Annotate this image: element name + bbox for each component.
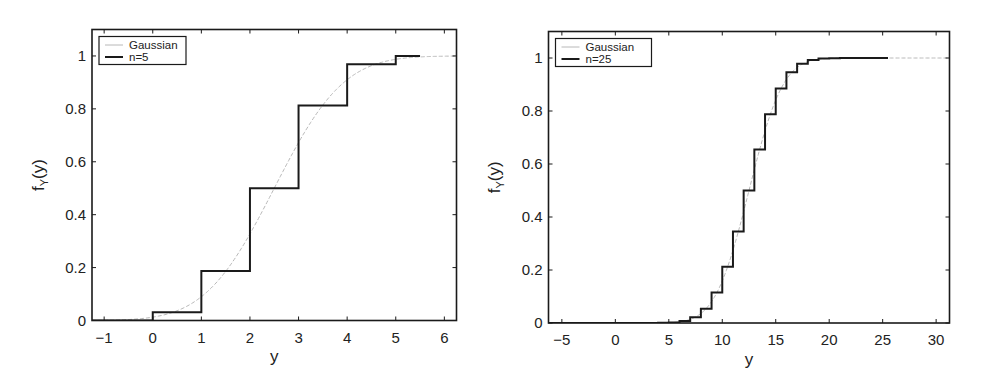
y-tick-label: 0.2 <box>522 261 543 278</box>
plot-area <box>43 56 456 321</box>
legend-label-gaussian: Gaussian <box>129 39 178 51</box>
y-tick-label: 0.6 <box>522 155 543 172</box>
x-tick-label: 25 <box>874 331 891 348</box>
y-tick-label: 0.4 <box>65 206 86 223</box>
x-tick-label: 3 <box>294 329 302 346</box>
x-tick-label: 0 <box>149 329 157 346</box>
legend-label-gaussian: Gaussian <box>586 41 635 53</box>
x-tick-label: 2 <box>246 329 254 346</box>
chart-panel-n25: −505101520253000.20.40.60.81 Gaussian n=… <box>485 32 950 370</box>
y-tick-label: 0.8 <box>522 102 543 119</box>
series-step-line <box>538 58 888 323</box>
x-tick-label: 5 <box>665 331 673 348</box>
x-tick-label: 5 <box>392 329 400 346</box>
figure: −1012345600.20.40.60.81 Gaussian n=5 y f… <box>0 0 982 387</box>
y-tick-label: 0.8 <box>65 100 86 117</box>
y-tick-label: 0 <box>534 314 542 331</box>
x-tick-label: 4 <box>343 329 351 346</box>
x-tick-label: −5 <box>553 331 570 348</box>
chart-panel-n5: −1012345600.20.40.60.81 Gaussian n=5 y f… <box>29 30 457 367</box>
plot-area <box>538 58 950 323</box>
x-tick-label: 20 <box>821 331 838 348</box>
legend-label-n5: n=5 <box>129 51 149 63</box>
axis-ticks: −505101520253000.20.40.60.81 <box>522 32 950 349</box>
y-tick-label: 0.6 <box>65 153 86 170</box>
y-tick-label: 0.4 <box>522 208 543 225</box>
y-axis-label: fY(y) <box>29 159 50 191</box>
series-step-line <box>43 56 420 321</box>
y-tick-label: 1 <box>78 47 86 64</box>
x-tick-label: 30 <box>928 331 945 348</box>
y-tick-label: 1 <box>534 49 542 66</box>
legend-label-n25: n=25 <box>586 53 612 65</box>
x-tick-label: 1 <box>197 329 205 346</box>
x-tick-label: −1 <box>96 329 113 346</box>
axes-frame <box>549 32 950 324</box>
y-tick-label: 0 <box>78 312 86 329</box>
x-axis-label: y <box>745 350 754 369</box>
y-tick-label: 0.2 <box>65 259 86 276</box>
axes-frame <box>92 30 457 321</box>
x-axis-label: y <box>270 347 279 366</box>
legend: Gaussian n=25 <box>556 39 652 67</box>
x-tick-label: 15 <box>767 331 784 348</box>
x-tick-label: 10 <box>714 331 731 348</box>
x-tick-label: 6 <box>440 329 448 346</box>
legend: Gaussian n=5 <box>99 37 186 65</box>
y-axis-label: fY(y) <box>485 161 506 193</box>
x-tick-label: 0 <box>611 331 619 348</box>
